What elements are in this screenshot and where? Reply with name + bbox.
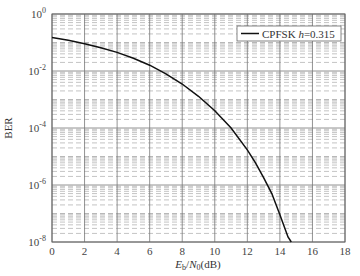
- x-tick-label: 6: [147, 245, 153, 257]
- y-tick-label: 10-2: [28, 63, 46, 77]
- grid: [52, 14, 345, 242]
- x-tick-label: 4: [114, 245, 120, 257]
- x-tick-label: 12: [242, 245, 253, 257]
- y-axis-ticks: 10010-210-410-610-8: [28, 6, 46, 248]
- x-tick-label: 2: [82, 245, 88, 257]
- x-tick-label: 18: [340, 245, 352, 257]
- ber-chart: 10010-210-410-610-8 024681012141618 CPFS…: [0, 0, 360, 276]
- y-tick-label: 100: [31, 6, 46, 20]
- x-tick-label: 8: [179, 245, 185, 257]
- y-tick-label: 10-4: [28, 120, 46, 134]
- x-tick-label: 10: [209, 245, 221, 257]
- y-axis-label: BER: [2, 117, 14, 139]
- x-axis-label: Eb/N0(dB): [174, 258, 221, 272]
- legend: CPFSK h=0.315: [237, 26, 341, 41]
- y-tick-label: 10-8: [28, 234, 46, 248]
- x-axis-ticks: 024681012141618: [49, 245, 351, 257]
- x-tick-label: 16: [307, 245, 319, 257]
- x-tick-label: 0: [49, 245, 55, 257]
- y-tick-label: 10-6: [28, 177, 46, 191]
- ber-curve: [52, 38, 291, 243]
- legend-label: CPFSK h=0.315: [262, 28, 335, 40]
- x-tick-label: 14: [274, 245, 286, 257]
